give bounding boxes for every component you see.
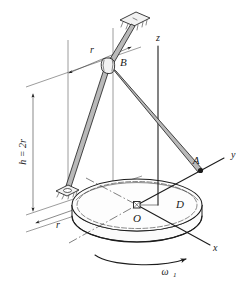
point-A	[198, 168, 203, 173]
figure-container: r h = 2r r	[0, 0, 251, 286]
rod-B-to-lower-support	[65, 69, 109, 190]
rotation-arrow	[95, 255, 186, 265]
axis-x-label: x	[212, 242, 218, 253]
upper-fixed-plate	[120, 12, 150, 31]
dim-h-label: h = 2r	[17, 139, 28, 165]
disk-D	[72, 179, 202, 242]
axis-y-label: y	[230, 149, 236, 160]
dim-r-top-label: r	[90, 44, 94, 55]
point-A-label: A	[192, 154, 200, 166]
dim-r-bottom-label: r	[56, 219, 60, 230]
disk-label: D	[175, 198, 184, 210]
axis-z-label: z	[155, 32, 160, 43]
joint-B	[101, 58, 114, 74]
origin-label: O	[133, 212, 141, 224]
joint-B-label: B	[120, 56, 127, 68]
mechanics-diagram: r h = 2r r	[0, 0, 251, 286]
omega-label: ω	[161, 266, 168, 277]
omega-subscript-label: 1	[173, 271, 177, 279]
